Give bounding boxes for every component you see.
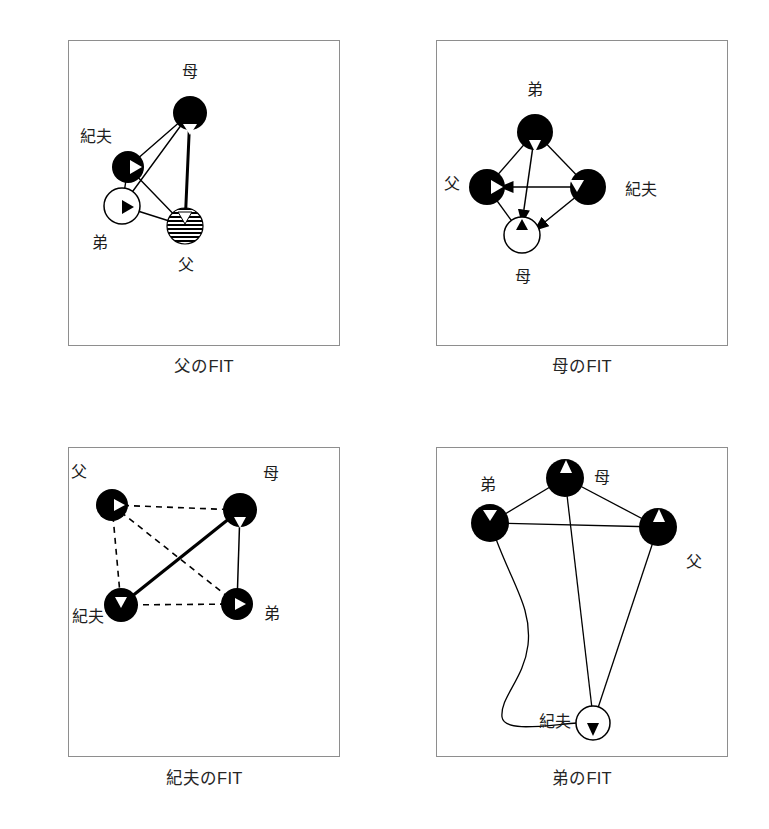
node-label-chichi: 父 [686,553,702,571]
panel-norio-fit: 父 母 紀夫 弟 [68,447,340,757]
node-label-otouto: 弟 [480,476,496,494]
node-label-otouto: 弟 [92,234,108,252]
panel-chichi-fit: 母 紀夫 弟 父 [68,40,340,346]
panel-caption-norio: 紀夫のFIT [68,768,340,788]
edge-otouto-norio-curved [496,539,577,727]
node-label-haha: 母 [263,465,279,483]
node-label-norio: 紀夫 [72,608,104,626]
edge-chichi-norio [593,527,658,723]
node-label-otouto: 弟 [527,81,543,99]
sociogram-norio [68,447,340,757]
panel-caption-haha: 母のFIT [436,356,728,376]
node-label-chichi: 父 [444,175,460,193]
node-label-chichi: 父 [178,256,194,274]
node-layer [471,459,677,740]
node-label-norio: 紀夫 [80,128,112,146]
node-label-norio: 紀夫 [539,713,571,731]
sociogram-haha [436,40,728,346]
node-label-haha: 母 [182,63,198,81]
node-label-haha: 母 [515,268,531,286]
edge-layer [490,478,658,727]
node-label-norio: 紀夫 [625,181,657,199]
node-label-otouto: 弟 [264,605,280,623]
node-haha-marker [183,124,197,135]
edge-layer [112,505,240,605]
node-label-haha: 母 [594,469,610,487]
panel-otouto-fit: 母 弟 父 紀夫 [436,447,728,757]
panel-caption-chichi: 父のFIT [68,356,340,376]
node-label-chichi: 父 [71,463,87,481]
edge-haha-norio-thick [121,510,240,605]
sociogram-chichi [68,40,340,346]
node-layer [469,114,606,253]
edge-norio-otouto [121,604,237,605]
edge-haha-norio [565,478,593,717]
panel-caption-otouto: 弟のFIT [436,768,728,788]
node-otouto [471,504,509,542]
edge-otouto-chichi [490,523,658,527]
figure-root: 母 紀夫 弟 父 父のFIT [0,0,769,829]
edge-chichi-otouto [112,505,237,604]
node-layer [104,96,207,244]
panel-haha-fit: 弟 紀夫 父 母 [436,40,728,346]
edge-chichi-haha [112,505,240,510]
